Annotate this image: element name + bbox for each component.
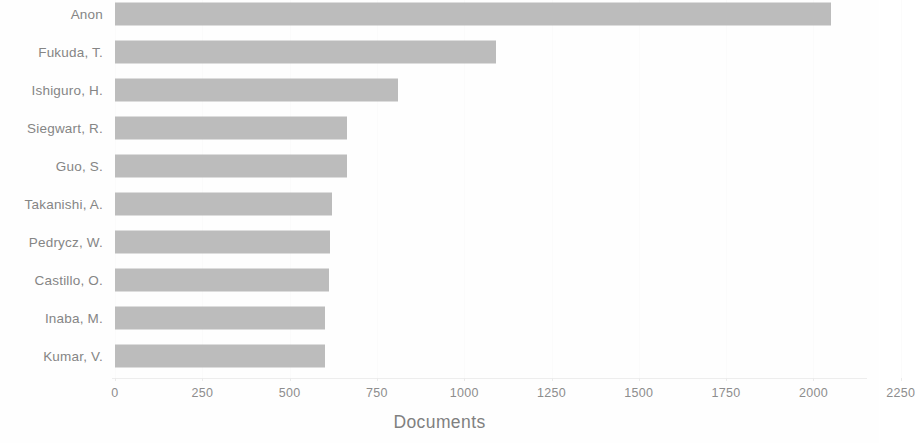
bar-row[interactable]: Ishiguro, H. <box>0 71 879 109</box>
x-axis-tick <box>813 378 814 381</box>
x-axis-tick-label: 0 <box>111 386 118 400</box>
x-axis-tick <box>202 378 203 381</box>
bar[interactable] <box>115 41 496 64</box>
gridline <box>901 0 902 378</box>
category-label: Castillo, O. <box>35 273 103 288</box>
x-axis-tick-label: 1250 <box>537 386 566 400</box>
bar-row[interactable]: Castillo, O. <box>0 261 879 299</box>
x-axis-title: Documents <box>0 412 879 433</box>
bar[interactable] <box>115 269 329 292</box>
x-axis-tick <box>464 378 465 381</box>
x-axis-tick <box>115 378 116 381</box>
category-label: Siegwart, R. <box>27 121 103 136</box>
x-axis-tick-label: 2000 <box>799 386 828 400</box>
x-axis-tick-label: 1000 <box>450 386 479 400</box>
category-label: Guo, S. <box>56 159 103 174</box>
x-axis-tick <box>377 378 378 381</box>
x-axis-line <box>112 378 867 379</box>
bar[interactable] <box>115 3 831 26</box>
x-axis-tick-label: 500 <box>279 386 301 400</box>
plot-area: AnonFukuda, T.Ishiguro, H.Siegwart, R.Gu… <box>0 0 879 380</box>
category-label: Fukuda, T. <box>38 45 103 60</box>
bar[interactable] <box>115 155 347 178</box>
bar[interactable] <box>115 193 332 216</box>
bar-row[interactable]: Takanishi, A. <box>0 185 879 223</box>
category-label: Kumar, V. <box>43 349 103 364</box>
bar[interactable] <box>115 231 330 254</box>
x-axis-tick-label: 750 <box>366 386 388 400</box>
bar-row[interactable]: Siegwart, R. <box>0 109 879 147</box>
bar-row[interactable]: Pedrycz, W. <box>0 223 879 261</box>
bar-row[interactable]: Fukuda, T. <box>0 33 879 71</box>
bar-row[interactable]: Inaba, M. <box>0 299 879 337</box>
x-axis-tick <box>639 378 640 381</box>
x-axis-tick-label: 250 <box>191 386 213 400</box>
bar-row[interactable]: Guo, S. <box>0 147 879 185</box>
bar[interactable] <box>115 345 325 368</box>
x-axis-tick <box>290 378 291 381</box>
bar[interactable] <box>115 117 347 140</box>
bar-row[interactable]: Anon <box>0 0 879 33</box>
x-axis-tick-label: 1500 <box>624 386 653 400</box>
x-axis-tick-label: 1750 <box>712 386 741 400</box>
x-axis-tick-label: 2250 <box>886 386 915 400</box>
bar-row[interactable]: Kumar, V. <box>0 337 879 375</box>
x-axis-tick <box>901 378 902 381</box>
x-axis-tick <box>726 378 727 381</box>
category-label: Inaba, M. <box>45 311 103 326</box>
bar[interactable] <box>115 307 325 330</box>
category-label: Ishiguro, H. <box>32 83 103 98</box>
bar[interactable] <box>115 79 398 102</box>
category-label: Pedrycz, W. <box>29 235 103 250</box>
category-label: Takanishi, A. <box>25 197 103 212</box>
x-axis-tick <box>552 378 553 381</box>
category-label: Anon <box>71 7 103 22</box>
